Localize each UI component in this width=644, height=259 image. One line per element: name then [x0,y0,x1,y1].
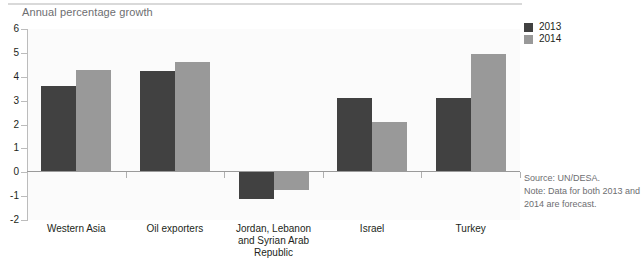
y-axis-tick [21,29,28,30]
legend-label-2014: 2014 [539,34,561,44]
footnotes: Source: UN/DESA. Note: Data for both 201… [524,172,642,211]
y-axis-label: 0 [2,167,19,177]
category-label: Jordan, Lebanon and Syrian Arab Republic [224,223,323,259]
x-axis-tick [421,172,422,178]
header-divider [8,3,522,5]
bar-2014-0 [76,70,111,173]
bar-2013-0 [41,86,76,172]
source-text: UN/DESA. [558,173,601,183]
y-axis-label: 5 [2,48,19,58]
category-label: Turkey [421,223,520,235]
category-label: Western Asia [27,223,126,235]
bar-2014-2 [274,172,309,190]
y-axis-tick [21,148,28,149]
y-axis-label: 4 [2,72,19,82]
bar-2014-1 [175,62,210,172]
source-label: Source: [524,173,555,183]
bar-2014-3 [372,122,407,172]
y-axis-label: -1 [2,191,19,201]
legend-item-2014: 2014 [524,34,561,44]
chart-title: Annual percentage growth [22,6,153,18]
bar-2014-4 [471,54,506,172]
y-axis-tick [21,53,28,54]
y-axis-tick [21,101,28,102]
y-axis-label: 3 [2,96,19,106]
zero-baseline [27,171,520,172]
bar-2013-2 [239,172,274,198]
y-axis-tick [21,125,28,126]
note-label: Note: [524,186,546,196]
y-axis-tick [21,77,28,78]
x-axis-tick [520,172,521,178]
y-axis-tick [21,220,28,221]
x-axis-tick [224,172,225,178]
legend-swatch-icon-2014 [524,35,533,44]
legend-swatch-icon-2013 [524,23,533,32]
note-line: Note: Data for both 2013 and 2014 are fo… [524,185,642,211]
legend-label-2013: 2013 [539,22,561,32]
y-axis-label: 6 [2,24,19,34]
y-axis-label: -2 [2,215,19,225]
y-axis-tick [21,196,28,197]
category-label: Oil exporters [126,223,225,235]
y-axis-label: 2 [2,120,19,130]
bar-2013-1 [140,71,175,172]
source-line: Source: UN/DESA. [524,172,642,185]
x-axis-tick [323,172,324,178]
y-axis-label: 1 [2,143,19,153]
legend: 2013 2014 [524,22,561,46]
category-label: Israel [323,223,422,235]
bar-2013-3 [337,98,372,172]
y-axis-tick [21,172,28,173]
bar-2013-4 [436,98,471,172]
x-axis-tick [126,172,127,178]
legend-item-2013: 2013 [524,22,561,32]
